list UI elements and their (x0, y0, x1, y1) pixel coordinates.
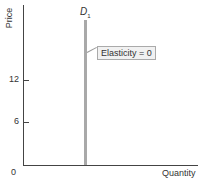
x-axis-label: Quantity (162, 168, 196, 178)
y-tick-label-6: 6 (4, 116, 19, 126)
y-tick-12 (24, 80, 29, 81)
y-axis-label: Price (0, 11, 21, 25)
y-tick-6 (24, 122, 29, 123)
y-axis (23, 5, 24, 165)
elasticity-callout: Elasticity = 0 (97, 46, 156, 60)
x-axis (23, 165, 198, 166)
callout-leader-line (87, 47, 97, 53)
origin-label: 0 (11, 167, 16, 177)
demand-curve-d1 (84, 20, 87, 165)
y-tick-label-12: 12 (4, 74, 19, 84)
demand-curve-label: D1 (80, 6, 91, 19)
